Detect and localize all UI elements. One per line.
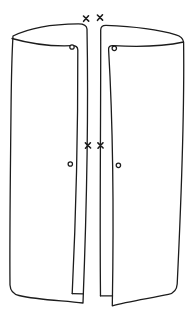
right-panel-outline (100, 25, 184, 305)
left-panel-outline (10, 24, 88, 303)
o-mark-top-left (70, 45, 74, 49)
right-panel (100, 25, 184, 305)
sketch-canvas (0, 0, 188, 322)
x-mark-top-right (97, 15, 102, 20)
sketch-page (0, 0, 188, 322)
o-mark-middle-right (116, 163, 120, 167)
o-mark-top-right (112, 46, 116, 50)
left-panel-inner-edge (12, 39, 78, 294)
left-panel (10, 24, 88, 303)
x-mark-top-left (84, 16, 89, 21)
o-mark-middle-left (68, 162, 72, 166)
x-mark-middle-left (85, 143, 90, 148)
